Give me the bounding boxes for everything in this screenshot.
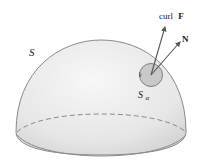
curl-f-label: curl F	[159, 11, 184, 21]
surface-label: S	[29, 46, 35, 58]
hemisphere-surface	[16, 40, 186, 155]
curl-vector: F	[178, 11, 184, 21]
hemisphere-diagram: S curl F N S α	[0, 0, 208, 166]
disk-label-sub: α	[146, 94, 150, 102]
normal-label: N	[182, 34, 189, 44]
disk-label-main: S	[138, 89, 143, 100]
curl-word: curl	[159, 11, 173, 21]
